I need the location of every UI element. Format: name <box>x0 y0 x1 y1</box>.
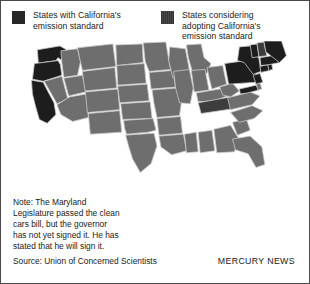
state-ne: Nebraska <box>118 84 149 103</box>
state-co: Colorado <box>85 89 119 113</box>
legend-label-considering: States considering adopting California's… <box>182 10 261 42</box>
us-map-svg: WashingtonOregonCaliforniaNevadaIdahoMon… <box>7 41 305 193</box>
state-nm: New Mexico <box>88 111 121 135</box>
legend-label-adopted: States with California's emission standa… <box>33 10 121 31</box>
state-al: Alabama <box>198 130 215 153</box>
state-ms: Mississippi <box>184 132 198 153</box>
state-la: Louisiana <box>159 134 186 155</box>
source-line: Source: Union of Concerned Scientists <box>13 256 157 267</box>
state-id: Idaho <box>61 49 81 77</box>
state-ks: Kansas <box>121 102 152 120</box>
legend-swatch-considering-icon <box>161 11 174 24</box>
state-ut: Utah <box>64 75 86 96</box>
state-wy: Wyoming <box>82 67 116 91</box>
state-sd: South Dakota <box>117 64 146 86</box>
map-note: Note: The Maryland Legislature passed th… <box>13 197 178 252</box>
state-nd: North Dakota <box>116 44 143 66</box>
state-mn: Minnesota <box>143 42 170 71</box>
legend-item-considering: States considering adopting California's… <box>161 10 261 42</box>
state-ar: Arkansas <box>157 117 182 136</box>
us-map: WashingtonOregonCaliforniaNevadaIdahoMon… <box>7 41 305 193</box>
legend-item-adopted: States with California's emission standa… <box>12 10 121 31</box>
state-ok: Oklahoma <box>124 118 156 134</box>
emission-standards-map-graphic: States with California's emission standa… <box>0 0 310 284</box>
state-tx: Texas <box>126 133 157 172</box>
state-mt: Montana <box>78 44 116 70</box>
legend-swatch-adopted-icon <box>12 11 25 24</box>
map-legend: States with California's emission standa… <box>1 1 309 43</box>
state-fl: Florida <box>232 136 264 167</box>
state-md: Maryland <box>239 85 259 94</box>
publication-credit: MERCURY NEWS <box>218 256 295 267</box>
